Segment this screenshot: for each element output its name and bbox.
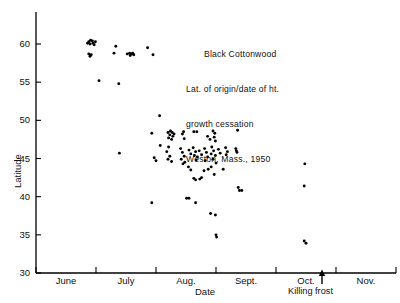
data-point xyxy=(155,159,158,162)
data-point xyxy=(170,160,173,163)
data-point xyxy=(179,147,182,150)
data-point xyxy=(188,197,191,200)
data-point xyxy=(165,150,168,153)
data-point xyxy=(167,146,170,149)
data-point xyxy=(94,40,97,43)
data-point xyxy=(131,52,134,55)
data-point xyxy=(182,162,185,165)
data-point xyxy=(114,45,117,48)
x-tick-label: Aug. xyxy=(156,275,216,286)
data-point xyxy=(117,82,120,85)
scatter-plot-figure: 30354045505560 JuneJulyAug.Sept.Oct.Nov.… xyxy=(0,0,400,303)
data-point xyxy=(98,79,101,82)
data-point xyxy=(89,55,92,58)
data-point xyxy=(152,53,155,56)
data-point xyxy=(194,201,197,204)
data-point xyxy=(118,152,121,155)
x-tick-marks xyxy=(36,267,396,273)
data-point xyxy=(167,131,170,134)
x-tick-label: June xyxy=(36,275,96,286)
data-point xyxy=(303,162,306,165)
data-point xyxy=(146,46,149,49)
x-tick-label: Oct. xyxy=(276,275,336,286)
data-point xyxy=(129,54,132,57)
data-point xyxy=(180,158,183,161)
killing-frost-annotation: Killing frost xyxy=(288,286,333,296)
data-point xyxy=(159,144,162,147)
y-tick-label: 35 xyxy=(8,229,30,240)
chart-title-block: Black Cottonwood Lat. of origin/date of … xyxy=(186,26,279,188)
data-point xyxy=(150,132,153,135)
data-point xyxy=(170,138,173,141)
y-tick-label: 60 xyxy=(8,38,30,49)
title-line-1: Black Cottonwood xyxy=(186,49,279,61)
x-axis-label: Date xyxy=(195,286,215,297)
data-point xyxy=(240,189,243,192)
data-point xyxy=(113,52,116,55)
x-tick-label: Nov. xyxy=(336,275,396,286)
data-point xyxy=(158,114,161,117)
title-line-3: growth cessation xyxy=(186,119,279,131)
data-point xyxy=(215,236,218,239)
data-point xyxy=(150,201,153,204)
y-tick-label: 40 xyxy=(8,191,30,202)
data-point xyxy=(93,43,96,46)
x-tick-label: July xyxy=(96,275,156,286)
y-tick-label: 55 xyxy=(8,76,30,87)
data-point xyxy=(303,185,306,188)
data-point xyxy=(168,155,171,158)
data-point xyxy=(209,212,212,215)
y-tick-label: 50 xyxy=(8,114,30,125)
data-point xyxy=(182,130,185,133)
data-point xyxy=(181,151,184,154)
data-point xyxy=(173,133,176,136)
data-point xyxy=(168,133,171,136)
data-point xyxy=(153,156,156,159)
data-point xyxy=(167,158,170,161)
data-point xyxy=(214,214,217,217)
data-point xyxy=(305,242,308,245)
data-point xyxy=(86,42,89,45)
y-axis-label: Latitude xyxy=(12,154,23,188)
y-tick-label: 30 xyxy=(8,267,30,278)
y-tick-marks xyxy=(36,44,41,273)
data-point xyxy=(167,136,170,139)
title-line-2: Lat. of origin/date of ht. xyxy=(186,84,279,96)
title-line-4: Weston, Mass., 1950 xyxy=(186,154,279,166)
x-tick-label: Sept. xyxy=(216,275,276,286)
data-point xyxy=(303,239,306,242)
